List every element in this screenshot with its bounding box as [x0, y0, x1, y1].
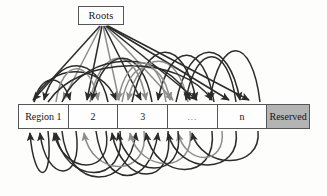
- region-cell-label: 3: [140, 111, 145, 122]
- upper-arc: [62, 61, 190, 102]
- lower-arc: [192, 131, 258, 161]
- lower-arc: [62, 131, 136, 177]
- region-cell-ellipsis: ...: [168, 105, 218, 128]
- region-cell-n[interactable]: n: [218, 105, 268, 128]
- lower-arc: [40, 131, 77, 171]
- region-cell-2[interactable]: 2: [69, 105, 119, 128]
- region-cell-label: n: [239, 111, 244, 122]
- lower-arc-group: [30, 131, 258, 177]
- roots-node[interactable]: Roots: [78, 6, 124, 25]
- figure-canvas: Roots Region 1 2 3 ... n Reserved: [0, 0, 327, 196]
- lower-arc: [30, 131, 49, 173]
- lower-arc: [178, 131, 222, 158]
- region-cell-label: ...: [187, 112, 197, 122]
- region-bar: Region 1 2 3 ... n Reserved: [18, 104, 310, 129]
- region-cell-label: 2: [90, 111, 95, 122]
- region-cell-label: Region 1: [25, 111, 61, 122]
- roots-node-label: Roots: [88, 10, 113, 21]
- region-cell-reserved[interactable]: Reserved: [267, 105, 309, 128]
- diagram-edges-layer: [0, 0, 327, 196]
- region-cell-1[interactable]: Region 1: [19, 105, 69, 128]
- region-cell-3[interactable]: 3: [118, 105, 168, 128]
- region-cell-label: Reserved: [270, 111, 307, 122]
